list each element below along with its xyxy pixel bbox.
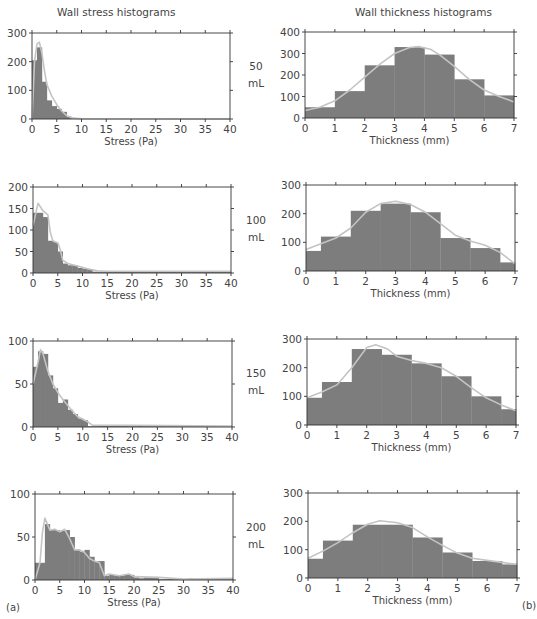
histogram-bar <box>353 525 383 578</box>
x-tick-label: 5 <box>454 582 461 594</box>
y-tick-label: 200 <box>283 515 303 527</box>
x-tick-label: 3 <box>394 582 401 594</box>
x-tick-label: 4 <box>424 582 431 594</box>
x-tick-label: 1 <box>335 582 342 594</box>
x-tick-label: 6 <box>484 582 491 594</box>
x-tick-label: 2 <box>364 582 371 594</box>
x-axis-label: Thickness (mm) <box>372 595 453 606</box>
y-tick-label: 100 <box>283 544 303 556</box>
x-tick-label: 7 <box>514 582 521 594</box>
x-tick-label: 0 <box>305 582 312 594</box>
histogram-bar <box>383 525 413 578</box>
figure: Wall stress histograms Wall thickness hi… <box>0 0 537 619</box>
y-tick-label: 300 <box>283 487 303 499</box>
histogram-bar <box>502 564 517 578</box>
y-tick-label: 0 <box>296 572 303 584</box>
histogram-bars <box>308 525 517 578</box>
histogram-bar <box>472 561 502 578</box>
thickness-histogram-200ml: 012345670100200300Thickness (mm) <box>0 0 537 619</box>
histogram-bar <box>308 559 323 578</box>
histogram-bar <box>323 541 353 578</box>
